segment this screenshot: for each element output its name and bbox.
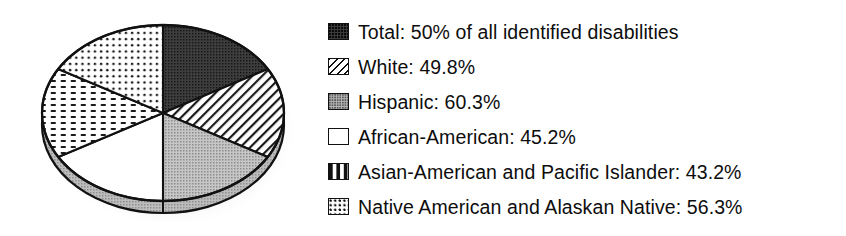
legend-item-native-american-alaskan-native[interactable]: Native American and Alaskan Native: 56.3… [328,189,844,224]
legend-label-total: Total: 50% of all identified disabilitie… [358,21,679,43]
legend-swatch-hispanic-icon [328,93,349,110]
legend-swatch-asian-american-pacific-islander-icon [328,163,349,180]
pie-svg [0,0,330,236]
pie-chart-figure: Total: 50% of all identified disabilitie… [0,0,846,236]
legend-item-asian-american-pacific-islander[interactable]: Asian-American and Pacific Islander: 43.… [328,154,844,189]
legend-label-native-american-alaskan-native: Native American and Alaskan Native: 56.3… [358,196,743,218]
legend-item-hispanic[interactable]: Hispanic: 60.3% [328,84,844,119]
pie-chart-graphic [0,0,330,236]
legend-label-white: White: 49.8% [358,56,475,78]
legend-item-white[interactable]: White: 49.8% [328,49,844,84]
legend-label-hispanic: Hispanic: 60.3% [358,91,500,113]
legend-label-african-american: African-American: 45.2% [358,126,576,148]
legend-swatch-african-american-icon [328,128,349,145]
legend-item-total[interactable]: Total: 50% of all identified disabilitie… [328,14,844,49]
legend-label-asian-american-pacific-islander: Asian-American and Pacific Islander: 43.… [358,161,742,183]
legend-swatch-white-icon [328,58,349,75]
legend-item-african-american[interactable]: African-American: 45.2% [328,119,844,154]
legend-swatch-total-icon [328,23,349,40]
chart-legend: Total: 50% of all identified disabilitie… [328,14,844,226]
legend-swatch-native-american-alaskan-native-icon [328,198,349,215]
